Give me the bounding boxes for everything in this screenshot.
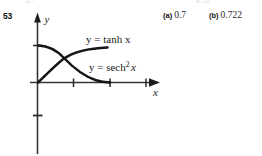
answer-part-b: (b)0.722 [209,11,242,21]
scan-artifact-top-right: 0.722 [196,0,210,4]
curve-label-sech-squared: y = sech2x [89,60,136,73]
answer-part-a-value: 0.7 [174,10,186,20]
curve-label-tanh: y = tanh x [86,33,131,45]
curve-label-sech-squared-prefix: y = sech [89,61,126,73]
curve-label-sech-squared-exponent: 2 [126,60,130,69]
y-axis-label: y [44,13,50,25]
figure-graph: y x y = tanh x y = sech2x [0,0,175,156]
answer-part-b-value: 0.722 [221,10,242,20]
graph-svg: y x y = tanh x y = sech2x [0,0,175,156]
x-axis-label: x [152,86,158,98]
y-axis-arrowhead [34,13,41,23]
curve-label-sech-squared-suffix: x [130,61,136,73]
answer-part-a-tag: (a) [163,11,172,20]
answer-part-a: (a)0.7 [163,11,186,21]
answer-part-b-tag: (b) [209,11,219,20]
